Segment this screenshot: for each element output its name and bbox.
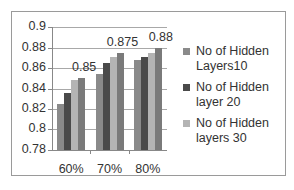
y-tick-label: 0.88 xyxy=(6,40,46,54)
y-tick-label: 0.86 xyxy=(6,60,46,74)
bar xyxy=(96,74,103,150)
x-tick-label: 60% xyxy=(51,162,91,176)
bar xyxy=(141,57,148,150)
bar xyxy=(64,93,71,150)
legend-item-layers30: No of Hidden layers 30 xyxy=(183,116,283,146)
legend-swatch-icon xyxy=(183,48,190,55)
x-tick-mark xyxy=(90,150,91,154)
y-axis xyxy=(52,27,53,150)
x-axis xyxy=(52,150,167,151)
legend-label: No of Hidden xyxy=(196,44,283,59)
legend-label: No of Hidden xyxy=(196,116,283,131)
legend-item-layers10: No of Hidden Layers10 xyxy=(183,44,283,74)
gridline xyxy=(52,27,167,28)
bar xyxy=(134,60,141,150)
legend-label: layer 20 xyxy=(196,95,283,110)
y-tick-label: 0.82 xyxy=(6,101,46,115)
x-tick-label: 80% xyxy=(128,162,168,176)
bar xyxy=(71,80,78,150)
legend-item-layer20: No of Hidden layer 20 xyxy=(183,80,283,110)
legend-label: Layers10 xyxy=(196,59,283,74)
bar xyxy=(117,53,124,150)
y-tick-label: 0.9 xyxy=(6,19,46,33)
bar xyxy=(103,63,110,150)
legend-label: layers 30 xyxy=(196,131,283,146)
bar xyxy=(148,53,155,150)
bar xyxy=(110,57,117,150)
bar xyxy=(78,78,85,150)
bar xyxy=(57,104,64,150)
y-tick-label: 0.8 xyxy=(6,121,46,135)
x-tick-label: 70% xyxy=(90,162,130,176)
data-label: 0.875 xyxy=(103,35,143,49)
legend-swatch-icon xyxy=(183,120,190,127)
data-label: 0.85 xyxy=(64,60,104,74)
legend-label: No of Hidden xyxy=(196,80,283,95)
legend-swatch-icon xyxy=(183,84,190,91)
y-tick-label: 0.78 xyxy=(6,142,46,156)
y-tick-label: 0.84 xyxy=(6,81,46,95)
chart-legend: No of Hidden Layers10 No of Hidden layer… xyxy=(183,44,283,152)
x-tick-mark xyxy=(129,150,130,154)
bar xyxy=(155,48,162,151)
data-label: 0.88 xyxy=(141,30,181,44)
